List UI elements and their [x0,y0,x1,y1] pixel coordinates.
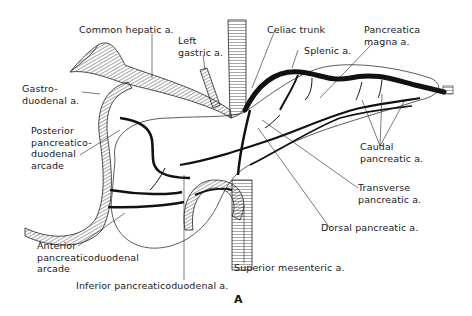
label-caudal-pancreatic: Caudal pancreatic a. [360,141,423,164]
label-celiac-trunk: Celiac trunk [267,24,325,36]
label-gastroduodenal: Gastro- duodenal a. [22,83,79,106]
label-pancreatica-magna: Pancreatica magna a. [364,24,420,47]
label-common-hepatic: Common hepatic a. [79,24,174,36]
celiac-trunk-vessel [228,20,246,118]
anterior-arcade [110,190,182,194]
label-dorsal-pancreatic: Dorsal pancreatic a. [321,222,418,234]
label-left-gastric: Left gastric a. [178,35,223,58]
label-inferior-pancreaticoduodenal: Inferior pancreaticoduodenal a. [76,280,228,292]
label-posterior-arcade: Posterior pancreatico- duodenal arcade [31,125,92,171]
label-splenic: Splenic a. [304,45,351,57]
panel-label: A [234,293,243,306]
label-anterior-arcade: Anterior pancreaticoduodenal arcade [37,240,139,275]
label-transverse-pancreatic: Transverse pancreatic a. [358,182,421,205]
label-superior-mesenteric: Superior mesenteric a. [234,262,345,274]
